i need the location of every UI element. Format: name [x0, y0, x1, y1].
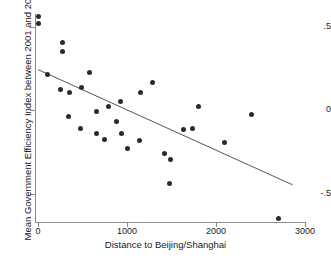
data-point — [167, 181, 172, 186]
plot-area — [0, 0, 331, 259]
data-point — [94, 131, 99, 136]
data-point — [196, 104, 201, 109]
data-point — [60, 49, 65, 54]
data-point — [119, 131, 124, 136]
data-point — [190, 126, 195, 131]
data-point — [181, 127, 186, 132]
regression-line — [38, 70, 293, 185]
data-point — [162, 151, 167, 156]
data-point — [276, 216, 281, 221]
regression-line-svg — [0, 0, 331, 259]
data-point — [60, 40, 65, 45]
data-point — [94, 109, 99, 114]
scatter-plot-figure: .5 0 -.5 0 1000 2000 3000 Distance to Be… — [0, 0, 331, 259]
data-point — [78, 126, 83, 131]
data-point — [114, 119, 119, 124]
